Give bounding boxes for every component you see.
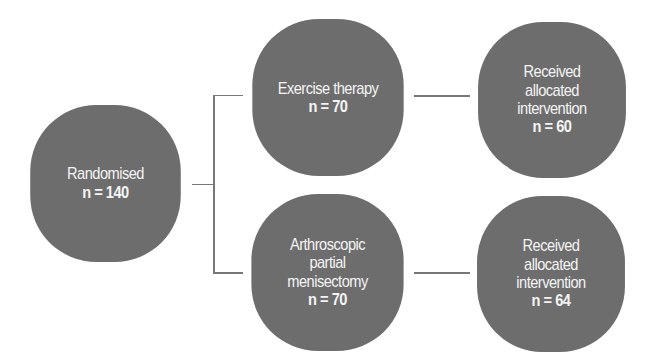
node-label: Received — [523, 237, 580, 255]
node-count: n = 60 — [533, 118, 572, 136]
node-label: allocated — [525, 82, 579, 100]
node-label: Received — [524, 63, 581, 81]
node-label: allocated — [524, 256, 578, 274]
node-label: Randomised — [67, 165, 144, 183]
node-label: partial — [309, 254, 345, 272]
node-exercise-received: Received allocated intervention n = 60 — [478, 22, 626, 178]
node-count: n = 70 — [308, 291, 347, 309]
node-count: n = 70 — [309, 98, 348, 116]
node-exercise-therapy: Exercise therapy n = 70 — [252, 19, 403, 176]
node-count: n = 64 — [532, 292, 571, 310]
connector-apm-to-received — [414, 272, 470, 274]
connector-exercise-to-received — [414, 95, 470, 97]
node-label: intervention — [517, 100, 586, 118]
connector-to-apm — [213, 272, 243, 274]
node-count: n = 140 — [82, 184, 128, 202]
node-label: menisectomy — [287, 273, 367, 291]
connector-branch-vertical — [213, 95, 215, 274]
node-label: Arthroscopic — [290, 236, 365, 254]
node-randomised: Randomised n = 140 — [30, 105, 181, 262]
node-label: intervention — [516, 274, 585, 292]
connector-randomised-stem — [192, 184, 215, 186]
node-apm-received: Received allocated intervention n = 64 — [477, 196, 625, 352]
node-arthroscopic-partial-menisectomy: Arthroscopic partial menisectomy n = 70 — [251, 194, 403, 351]
node-label: Exercise therapy — [278, 80, 379, 98]
connector-to-exercise — [213, 95, 243, 97]
